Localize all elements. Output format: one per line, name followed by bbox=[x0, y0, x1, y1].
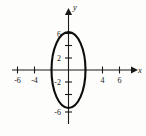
x-tick-label--6: -6 bbox=[14, 76, 21, 85]
y-axis-label: y bbox=[72, 2, 77, 12]
graph-figure: -6 -4 4 6 6 2 -2 -6 x y bbox=[0, 0, 146, 136]
x-tick-label-6: 6 bbox=[118, 76, 122, 85]
y-tick-label--2: -2 bbox=[54, 78, 61, 87]
x-tick-label--4: -4 bbox=[31, 76, 38, 85]
coordinate-plane: -6 -4 4 6 6 2 -2 -6 x y bbox=[0, 0, 146, 136]
x-axis-label: x bbox=[137, 65, 142, 75]
y-axis-arrow-icon bbox=[65, 8, 72, 15]
x-tick-label-4: 4 bbox=[101, 76, 105, 85]
y-tick-label-6: 6 bbox=[57, 30, 61, 39]
y-tick-label--6: -6 bbox=[54, 108, 61, 117]
y-tick-label-2: 2 bbox=[57, 54, 61, 63]
x-axis-arrow-icon bbox=[131, 66, 138, 73]
